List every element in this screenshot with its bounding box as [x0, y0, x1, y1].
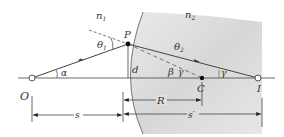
normal-line-dashed-outside: [89, 30, 128, 44]
label-R: R: [156, 95, 165, 106]
theta1-arc: [111, 38, 113, 49]
label-P: P: [123, 29, 131, 40]
alpha-arc: [56, 70, 57, 78]
incident-ray: [32, 44, 128, 78]
label-O: O: [20, 90, 29, 103]
label-s-prime: s′: [188, 110, 195, 120]
object-point-O: [29, 75, 35, 81]
label-gamma-I: γ: [221, 68, 227, 78]
label-C: C: [197, 83, 205, 94]
label-n2: n2: [185, 9, 195, 21]
refraction-diagram: n1 n2 P O C I θ1 θ2 α β γ γ d s R s′: [0, 0, 284, 137]
label-theta1: θ1: [97, 39, 107, 51]
label-s: s: [75, 110, 80, 120]
center-C: [200, 76, 204, 80]
label-alpha: α: [61, 68, 67, 78]
label-gamma-inner: γ: [178, 67, 184, 77]
point-P: [126, 42, 131, 47]
label-d: d: [132, 64, 138, 75]
label-beta: β: [167, 66, 174, 77]
image-point-I: [255, 75, 261, 81]
label-n1: n1: [96, 10, 106, 22]
